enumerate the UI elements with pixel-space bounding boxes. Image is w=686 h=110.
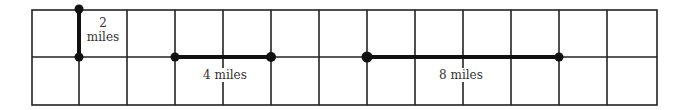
segment-2-miles xyxy=(75,5,84,62)
label-2-miles-unit: miles xyxy=(84,30,122,44)
label-4-miles: 4 miles xyxy=(202,68,248,82)
label-8-miles: 8 miles xyxy=(438,68,484,82)
label-2-miles: 2 miles xyxy=(84,16,122,44)
label-2-miles-number: 2 xyxy=(84,16,122,30)
